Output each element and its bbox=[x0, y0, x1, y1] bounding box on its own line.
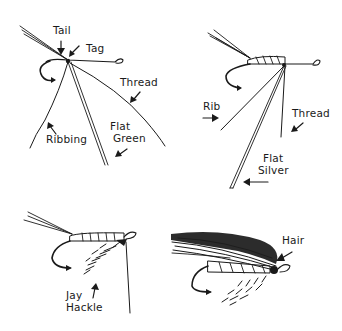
label-hair: Hair bbox=[282, 234, 304, 246]
panel-4-drawing bbox=[0, 0, 342, 331]
fly-tying-diagram: Tail Tag Thread Ribbing Flat Green bbox=[0, 0, 342, 331]
arrow-icon-hair bbox=[276, 252, 292, 261]
